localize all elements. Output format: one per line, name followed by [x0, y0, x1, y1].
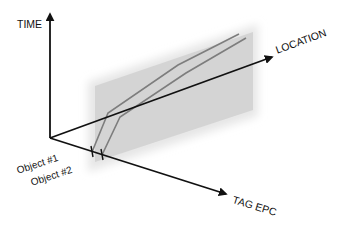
time-axis-label: TIME — [17, 18, 42, 30]
spatiotemporal-diagram — [0, 0, 345, 225]
